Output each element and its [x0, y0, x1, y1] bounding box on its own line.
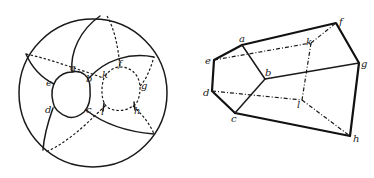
label-l: l [297, 99, 300, 110]
label-a: a [239, 33, 245, 44]
edge-a-b [242, 45, 265, 79]
left-figure-sphere: e a b c d k f g h l [19, 16, 167, 167]
label-b: b [86, 73, 92, 84]
label-c: c [231, 113, 237, 124]
outline-top [235, 23, 359, 136]
curve-c-lowright [86, 110, 154, 134]
left-hole-oval [52, 72, 90, 118]
label-a: a [70, 62, 76, 73]
edge-b-g [265, 63, 359, 79]
curve-a-top [72, 16, 100, 72]
label-k: k [306, 36, 312, 47]
outline-left [212, 45, 242, 113]
label-c: c [86, 104, 92, 115]
edge-d-l [212, 91, 302, 100]
outer-sphere-circle [19, 19, 167, 167]
label-l: l [101, 106, 104, 117]
label-g: g [141, 80, 147, 91]
right-figure-polyhedron: a e b d c f g h k l [203, 16, 367, 144]
label-d: d [45, 104, 51, 115]
label-b: b [265, 67, 271, 78]
diagram-canvas: e a b c d k f g h l a e b d c f g h k l [0, 0, 374, 178]
curve-back-l-bottom [46, 106, 105, 152]
label-f: f [117, 58, 124, 69]
label-g: g [361, 58, 367, 69]
label-d: d [203, 87, 209, 98]
label-h: h [134, 105, 140, 116]
label-k: k [102, 69, 108, 80]
label-f: f [338, 16, 345, 27]
label-h: h [353, 133, 359, 144]
label-e: e [46, 77, 52, 88]
label-e: e [205, 55, 211, 66]
